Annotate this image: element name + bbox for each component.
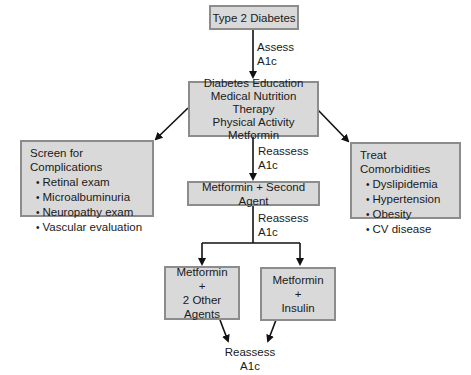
label-reassess-2: Reassess A1c bbox=[258, 211, 309, 239]
label-reassess-1: Reassess A1c bbox=[258, 144, 309, 172]
list-item: Dyslipidemia bbox=[366, 177, 459, 192]
node-screen-complications: Screen for Complications Retinal exam Mi… bbox=[20, 140, 154, 217]
node-type2-diabetes: Type 2 Diabetes bbox=[209, 5, 299, 30]
node-metformin-insulin: Metformin + Insulin bbox=[260, 267, 336, 321]
list-item: Microalbuminuria bbox=[36, 190, 152, 205]
node-metformin-second-agent: Metformin + Second Agent bbox=[187, 181, 320, 206]
list-item: Neuropathy exam bbox=[36, 205, 152, 220]
label-assess-a1c: Assess A1c bbox=[257, 40, 294, 68]
node-metformin-two-agents: Metformin + 2 Other Agents bbox=[164, 266, 240, 320]
node-label: Type 2 Diabetes bbox=[212, 11, 295, 25]
list-item: Hypertension bbox=[366, 192, 459, 207]
node-treat-comorbidities: Treat Comorbidities Dyslipidemia Hyperte… bbox=[350, 142, 461, 219]
list-item: Vascular evaluation bbox=[36, 220, 152, 235]
list-item: CV disease bbox=[366, 222, 459, 237]
list-item: Obesity bbox=[366, 207, 459, 222]
label-reassess-final: Reassess A1c bbox=[220, 345, 280, 373]
list-item: Retinal exam bbox=[36, 175, 152, 190]
node-initial-therapy: Diabetes Education Medical Nutrition The… bbox=[188, 81, 319, 137]
